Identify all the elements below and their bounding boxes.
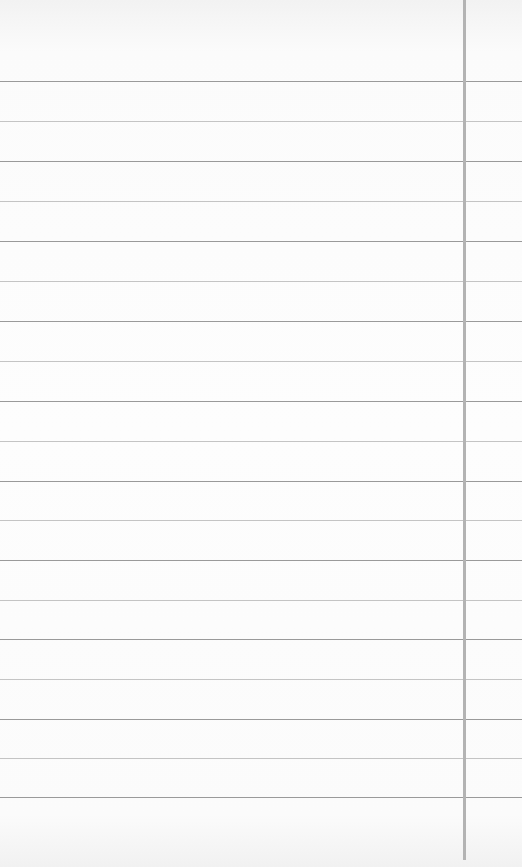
ruled-line	[0, 679, 522, 680]
ruled-line	[0, 361, 522, 362]
ruled-line	[0, 241, 522, 242]
ruled-line	[0, 758, 522, 759]
ruled-line	[0, 161, 522, 162]
ruled-line	[0, 441, 522, 442]
ruled-line	[0, 321, 522, 322]
margin-line	[463, 0, 466, 860]
ruled-line	[0, 520, 522, 521]
ruled-line	[0, 481, 522, 482]
ruled-line	[0, 797, 522, 798]
ruled-line	[0, 600, 522, 601]
ruled-line	[0, 201, 522, 202]
ruled-line	[0, 281, 522, 282]
ruled-line	[0, 560, 522, 561]
ruled-line	[0, 639, 522, 640]
ruled-line	[0, 719, 522, 720]
ruled-line	[0, 81, 522, 82]
lined-paper	[0, 0, 522, 867]
ruled-line	[0, 121, 522, 122]
ruled-line	[0, 401, 522, 402]
